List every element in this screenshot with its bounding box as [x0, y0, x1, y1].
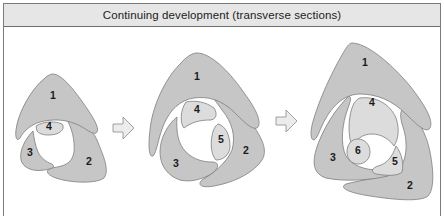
label-2: 2 — [243, 144, 249, 156]
segment-3 — [21, 131, 54, 171]
label-2: 2 — [86, 155, 92, 167]
label-3: 3 — [27, 146, 33, 158]
stage-2: 1 2 3 4 5 — [149, 53, 264, 187]
label-4: 4 — [369, 96, 375, 108]
stage-3: 1 2 3 4 5 6 — [311, 43, 433, 200]
arrow-right-icon — [276, 110, 297, 132]
label-5: 5 — [392, 155, 398, 167]
label-1: 1 — [362, 56, 368, 68]
label-3: 3 — [330, 151, 336, 163]
stage-1: 1 2 3 4 — [16, 74, 107, 182]
segment-5 — [372, 146, 402, 175]
label-6: 6 — [355, 144, 361, 156]
label-3: 3 — [173, 157, 179, 169]
label-1: 1 — [194, 70, 200, 82]
label-4: 4 — [46, 120, 52, 132]
label-2: 2 — [407, 179, 413, 191]
label-4: 4 — [194, 103, 200, 115]
label-5: 5 — [218, 133, 224, 145]
segment-3 — [160, 117, 218, 181]
label-1: 1 — [50, 89, 56, 101]
diagram-canvas: 1 2 3 4 1 2 3 4 5 1 — [0, 0, 444, 216]
arrow-right-icon — [113, 117, 134, 139]
